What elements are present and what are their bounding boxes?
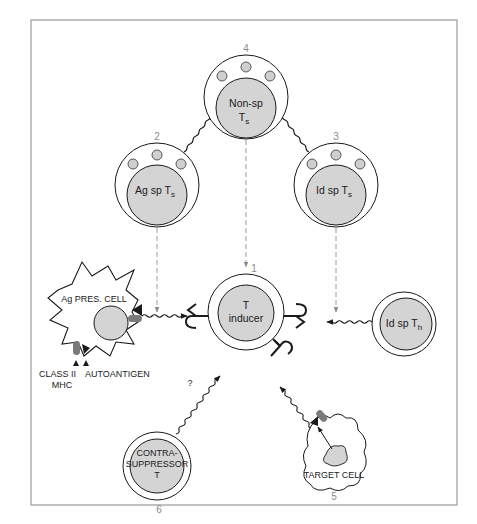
cell-label: T (154, 470, 160, 480)
cell-label: T (243, 299, 250, 311)
cell-2-antigen-specific-suppressor: 2 Ag sp Ts (115, 131, 199, 227)
question-label: ? (187, 378, 192, 388)
cell-5-target-cell: TARGET CELL 5 (303, 409, 366, 502)
node-number: 1 (251, 263, 257, 274)
node-number: 3 (333, 131, 339, 142)
mhc-class-ii-icon (73, 341, 80, 355)
antigen-icon (310, 416, 318, 426)
receptor-lower-right-icon (271, 339, 292, 356)
granule (176, 159, 186, 169)
granule (217, 71, 227, 81)
granule (128, 159, 138, 169)
wavy-arrow-6-to-1 (176, 376, 220, 434)
granule (331, 150, 341, 160)
mhc-class-ii-icon (128, 315, 142, 322)
granule (355, 159, 365, 169)
cell-idiotype-specific-helper: Id sp Th (372, 292, 436, 356)
cell-3-idiotype-specific-suppressor: 3 Id sp Ts (294, 131, 378, 227)
cell-label: Non-sp (229, 97, 263, 109)
apc-nucleus (94, 306, 128, 340)
node-number: 6 (156, 504, 162, 515)
cell-label: Ag PRES. CELL (61, 294, 127, 304)
receptor-right-icon (284, 304, 306, 328)
autoantigen-label: AUTOANTIGEN (85, 369, 150, 379)
immune-regulation-diagram: 4 Non-sp Ts 2 Ag sp Ts 3 Id sp Ts 1 T in… (0, 0, 477, 524)
pointer-arrow-icon (83, 360, 89, 366)
mhc-label: MHC (52, 380, 73, 390)
cell-6-contra-suppressor: CONTRA- SUPPRESSOR T 6 ? (123, 378, 193, 515)
granule (265, 71, 275, 81)
apc-membrane (48, 262, 138, 356)
wavy-arrow-apc-to-1 (142, 315, 187, 318)
class-ii-label: CLASS II (39, 369, 76, 379)
antigen-presenting-cell: Ag PRES. CELL CLASS II MHC AUTOANTIGEN (39, 262, 150, 390)
node-number: 4 (243, 43, 249, 54)
granule (307, 159, 317, 169)
node-number: 5 (331, 491, 337, 502)
wavy-arrow-idth-to-1 (327, 321, 372, 324)
cell-label: CONTRA- (137, 448, 178, 458)
node-number: 2 (154, 131, 160, 142)
granule (241, 62, 251, 72)
cell-4-nonspecific-suppressor: 4 Non-sp Ts (204, 43, 288, 139)
granule (152, 150, 162, 160)
cell-1-t-inducer: 1 T inducer (186, 263, 306, 356)
cell-label: TARGET CELL (304, 470, 365, 480)
receptor-left-icon (186, 304, 208, 328)
cell-label: inducer (229, 312, 264, 324)
cell-label: SUPPRESSOR (126, 459, 189, 469)
pointer-arrow-icon (73, 360, 79, 366)
